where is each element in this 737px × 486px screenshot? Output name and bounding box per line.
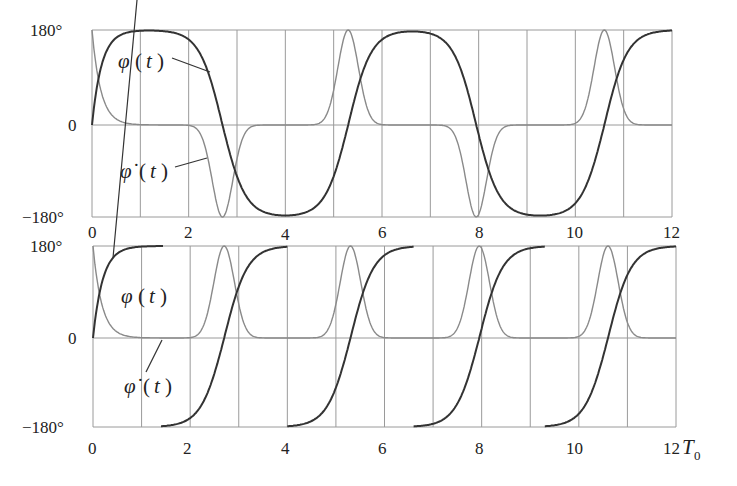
svg-text:): ) — [161, 159, 168, 183]
top-x-label: 6 — [378, 223, 387, 242]
bottom-y-label-neg180: −180° — [22, 418, 64, 437]
svg-text:t: t — [146, 49, 153, 73]
top-phidot-annotation: φ̇ ( t ) — [120, 158, 207, 183]
bottom-x-label: 4 — [281, 439, 290, 458]
x-unit-subscript: 0 — [694, 448, 701, 463]
top-y-label-neg180: −180° — [22, 208, 64, 227]
top-y-label-180: 180° — [30, 21, 62, 40]
top-x-label: 0 — [88, 223, 97, 242]
bottom-x-label: 2 — [183, 439, 192, 458]
phidot-leader-line — [146, 340, 162, 372]
top-x-label: 8 — [475, 223, 484, 242]
svg-text:(: ( — [139, 159, 146, 183]
bottom-x-label: 6 — [378, 439, 387, 458]
top-x-label: 10 — [566, 223, 583, 242]
top-x-labels: 0 2 4 6 8 10 12 — [88, 223, 680, 244]
top-x-label: 4 — [281, 225, 290, 244]
svg-text:): ) — [165, 374, 172, 398]
svg-text:): ) — [160, 284, 167, 308]
svg-text:(: ( — [138, 284, 145, 308]
svg-text:(: ( — [135, 49, 142, 73]
svg-text:(: ( — [143, 374, 150, 398]
phidot-leader-line — [175, 158, 207, 167]
svg-text:t: t — [149, 284, 156, 308]
bottom-y-label-180: 180° — [30, 237, 62, 256]
top-panel: 180° 0 −180° 0 2 4 6 8 10 12 φ ( t ) φ̇ … — [22, 21, 680, 244]
bottom-x-label: 0 — [88, 439, 97, 458]
phidot-symbol: φ̇ — [124, 374, 142, 398]
svg-text:t: t — [150, 159, 157, 183]
bottom-x-label: 8 — [475, 439, 484, 458]
svg-text:t: t — [154, 374, 161, 398]
phi-symbol: φ — [118, 49, 130, 73]
bottom-x-label: 10 — [566, 439, 583, 458]
bottom-x-label: 12 — [663, 439, 680, 458]
svg-text:): ) — [157, 49, 164, 73]
bottom-y-label-0: 0 — [68, 329, 77, 348]
top-x-label: 12 — [663, 223, 680, 242]
chart-figure: 180° 0 −180° 0 2 4 6 8 10 12 φ ( t ) φ̇ … — [0, 0, 737, 486]
bottom-x-labels: 0 2 4 6 8 10 12 T 0 — [88, 435, 701, 463]
top-y-label-0: 0 — [68, 116, 77, 135]
phi-symbol: φ — [121, 284, 133, 308]
bottom-phidot-annotation: φ̇ ( t ) — [124, 340, 172, 398]
phidot-symbol: φ̇ — [120, 159, 138, 183]
top-x-label: 2 — [184, 223, 193, 242]
